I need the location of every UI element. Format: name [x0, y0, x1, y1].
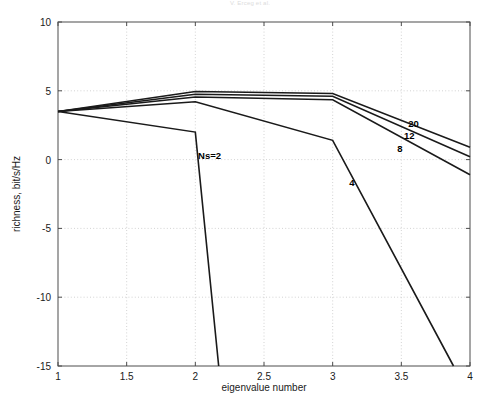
- series-label-ns-12: 12: [404, 130, 415, 141]
- x-axis-title: eigenvalue number: [221, 382, 307, 393]
- x-tick-label: 1: [55, 371, 61, 382]
- y-tick-label: 0: [45, 155, 51, 166]
- x-tick-label: 1.5: [120, 371, 134, 382]
- richness-vs-eigenvalue-line-chart: 11.522.533.54 1050-5-10-15 Ns=2481220 ei…: [0, 0, 489, 409]
- x-tick-label: 4: [467, 371, 473, 382]
- y-tick-label: 5: [45, 86, 51, 97]
- y-tick-label: -10: [37, 292, 52, 303]
- y-tick-label: 10: [40, 17, 52, 28]
- y-axis-tick-labels: 1050-5-10-15: [37, 17, 52, 372]
- y-tick-label: -15: [37, 361, 52, 372]
- series-label-ns-2: Ns=2: [198, 150, 221, 161]
- x-axis-tick-labels: 11.522.533.54: [55, 371, 473, 382]
- x-tick-label: 3.5: [394, 371, 408, 382]
- y-tick-label: -5: [42, 223, 51, 234]
- figure-canvas: V. Erceg et al. 11.522.533.54 1050-5-10-…: [0, 0, 489, 409]
- series-label-ns-8: 8: [397, 143, 402, 154]
- x-tick-label: 2.5: [257, 371, 271, 382]
- x-tick-label: 2: [193, 371, 199, 382]
- series-label-ns-20: 20: [408, 118, 419, 129]
- y-axis-title: richness, bit/s/Hz: [11, 156, 22, 232]
- x-tick-label: 3: [330, 371, 336, 382]
- series-label-ns-4: 4: [349, 177, 355, 188]
